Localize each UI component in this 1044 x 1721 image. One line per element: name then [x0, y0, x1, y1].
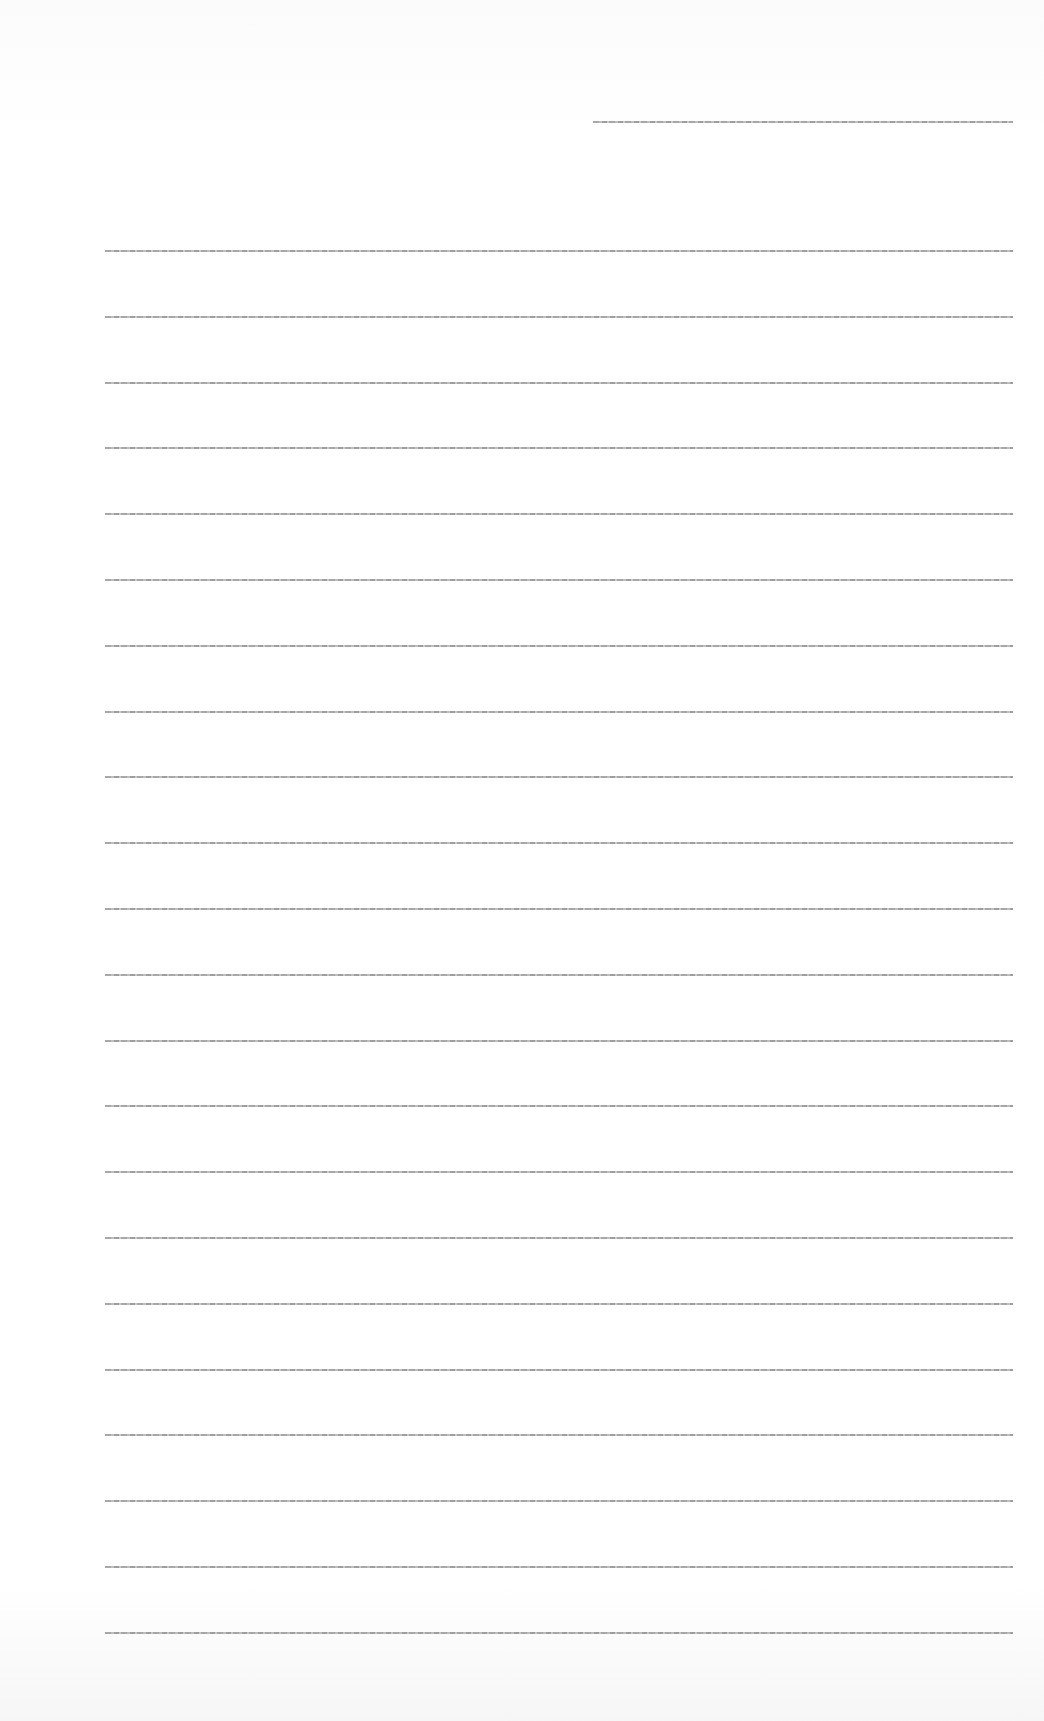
ruled-line	[105, 1040, 1013, 1042]
ruled-line	[105, 382, 1013, 384]
header-line	[593, 121, 1013, 123]
ruled-line	[105, 1303, 1013, 1305]
ruled-line	[105, 1632, 1013, 1634]
ruled-line	[105, 1105, 1013, 1107]
ruled-line	[105, 645, 1013, 647]
ruled-line	[105, 1500, 1013, 1502]
ruled-line	[105, 250, 1013, 252]
ruled-line	[105, 1566, 1013, 1568]
ruled-line	[105, 1171, 1013, 1173]
ruled-line	[105, 842, 1013, 844]
ruled-line	[105, 974, 1013, 976]
ruled-line	[105, 711, 1013, 713]
ruled-line	[105, 447, 1013, 449]
ruled-line	[105, 579, 1013, 581]
ruled-line	[105, 1369, 1013, 1371]
ruled-line	[105, 316, 1013, 318]
ruled-line	[105, 908, 1013, 910]
ruled-line	[105, 1434, 1013, 1436]
ruled-line	[105, 776, 1013, 778]
lined-paper-page	[0, 0, 1044, 1721]
ruled-line	[105, 1237, 1013, 1239]
ruled-line	[105, 513, 1013, 515]
